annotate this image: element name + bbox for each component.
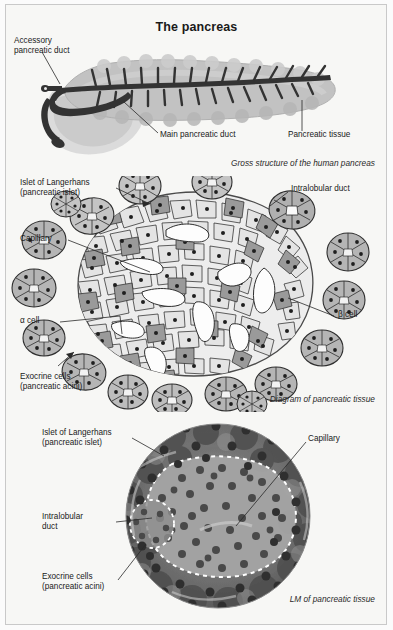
caption-lm-pancreatic-tissue: LM of pancreatic tissue <box>290 594 375 604</box>
label-islet-of-langerhans: Islet of Langerhans (pancreatic islet) <box>20 178 90 199</box>
label-capillary: Capillary <box>20 234 52 244</box>
islet-cells <box>78 196 308 385</box>
acinus <box>327 233 369 271</box>
label-intralobular-duct: Intralobular duct <box>291 184 350 194</box>
panel-light-micrograph: Islet of Langerhans (pancreatic islet) I… <box>0 412 393 630</box>
caption-diagram-pancreatic-tissue: Diagram of pancreatic tissue <box>270 394 375 404</box>
caption-gross-structure: Gross structure of the human pancreas <box>231 158 375 168</box>
panel-gross-anatomy: Accessory pancreatic duct Main pancreati… <box>0 0 393 176</box>
label-capillary: Capillary <box>308 434 340 444</box>
acinus <box>237 391 267 412</box>
acinus <box>152 384 192 412</box>
label-pancreatic-tissue: Pancreatic tissue <box>288 130 350 140</box>
label-islet-of-langerhans: Islet of Langerhans (pancreatic islet) <box>42 428 112 449</box>
label-alpha-cell: α cell <box>20 316 39 326</box>
acinus <box>301 330 343 366</box>
label-beta-cell: β cell <box>338 310 357 320</box>
figure-page: The pancreas <box>0 0 393 630</box>
label-exocrine-cells: Exocrine cells (pancreatic acini) <box>42 572 104 593</box>
acinus <box>12 269 56 307</box>
intralobular-duct-region <box>130 500 174 548</box>
label-intralobular-duct: Intralobular duct <box>42 512 83 533</box>
label-main-pancreatic-duct: Main pancreatic duct <box>160 130 236 140</box>
panel-diagram-pancreatic-tissue: Islet of Langerhans (pancreatic islet) C… <box>0 176 393 412</box>
label-accessory-pancreatic-duct: Accessory pancreatic duct <box>14 36 70 57</box>
acinus <box>108 375 148 409</box>
duct-lumen <box>286 206 298 215</box>
label-exocrine-cells: Exocrine cells (pancreatic acini) <box>20 372 82 393</box>
gross-anatomy-illustration <box>0 0 393 176</box>
